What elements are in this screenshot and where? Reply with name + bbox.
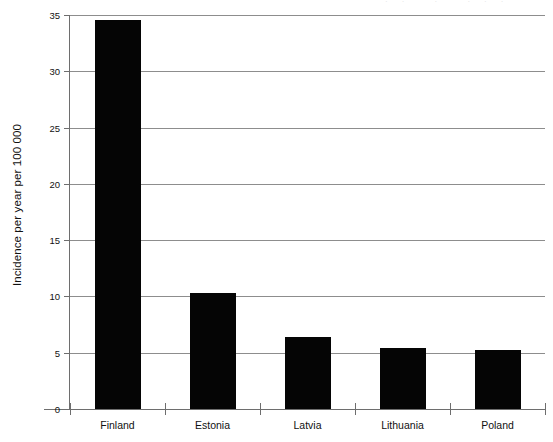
gridline (70, 15, 545, 16)
bar (190, 293, 236, 409)
bar (95, 20, 141, 409)
gridline (70, 128, 545, 129)
y-axis-tick-label: 20 (20, 178, 60, 189)
x-axis-tick (165, 403, 166, 415)
y-axis-tick (64, 15, 69, 16)
x-axis-end-tick (545, 403, 546, 415)
y-axis-tick-label: 35 (20, 10, 60, 21)
y-axis-line (69, 15, 70, 410)
y-axis-tick (64, 296, 69, 297)
x-axis-tick (355, 403, 356, 415)
gridline (70, 184, 545, 185)
plot-area: 05101520253035FinlandEstoniaLatviaLithua… (0, 0, 553, 442)
gridline (70, 71, 545, 72)
bar-chart-figure: ·· · ··· Incidence per year per 100 000 … (0, 0, 553, 442)
x-axis-category-label: Finland (100, 419, 134, 431)
y-axis-tick-label: 25 (20, 122, 60, 133)
y-axis-tick (64, 353, 69, 354)
y-axis-tick-label: 10 (20, 291, 60, 302)
y-axis-tick-label: 0 (20, 404, 60, 415)
x-axis-category-label: Latvia (293, 419, 321, 431)
x-axis-category-label: Estonia (195, 419, 230, 431)
x-axis-line (44, 409, 545, 410)
y-axis-tick-label: 5 (20, 347, 60, 358)
bar (380, 348, 426, 409)
x-axis-category-label: Lithuania (381, 419, 424, 431)
gridline (70, 296, 545, 297)
y-axis-tick (64, 128, 69, 129)
y-axis-tick (64, 240, 69, 241)
y-axis-tick-label: 15 (20, 235, 60, 246)
x-axis-tick (450, 403, 451, 415)
y-axis-tick (64, 71, 69, 72)
y-axis-tick (64, 184, 69, 185)
x-axis-end-tick (70, 403, 71, 415)
x-axis-tick (260, 403, 261, 415)
y-axis-tick (64, 409, 69, 410)
y-axis-tick-label: 30 (20, 66, 60, 77)
x-axis-category-label: Poland (481, 419, 514, 431)
bar (475, 350, 521, 409)
bar (285, 337, 331, 409)
gridline (70, 240, 545, 241)
